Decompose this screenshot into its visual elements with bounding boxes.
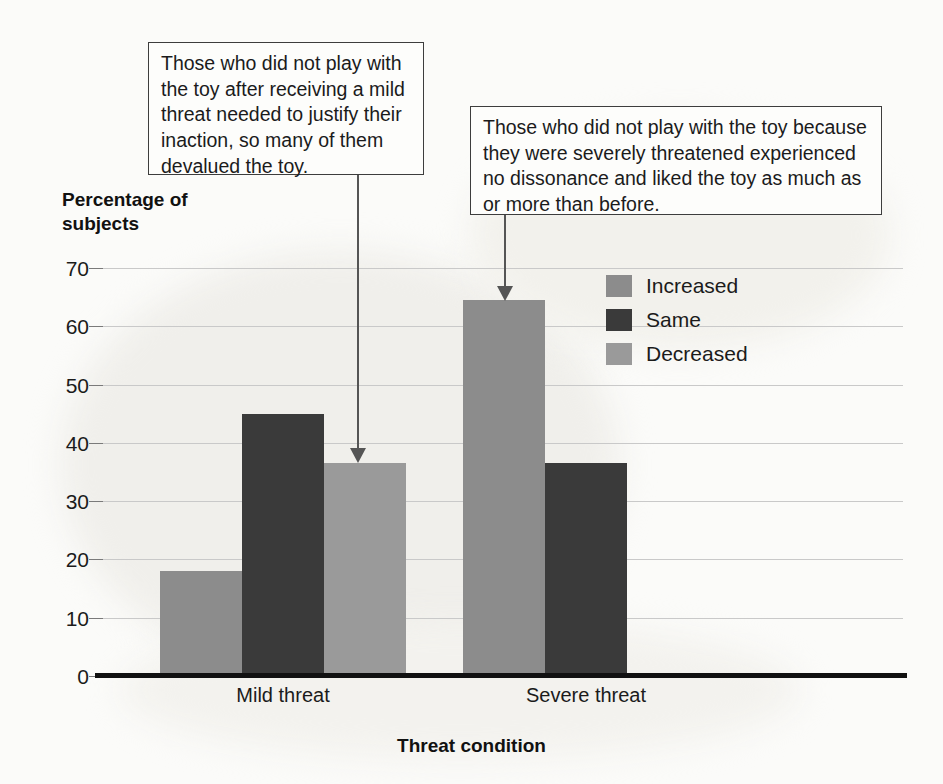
legend-item-same: Same (606, 303, 748, 337)
y-axis-tick-label: 60 (29, 316, 89, 337)
legend-item-decreased: Decreased (606, 337, 748, 371)
plot-area: 010203040506070 Mild threatSevere threat (103, 268, 903, 676)
bar-mild-threat-increased (160, 571, 242, 676)
x-axis-category-severe-threat: Severe threat (433, 684, 739, 707)
bar-severe-threat-same (545, 463, 627, 676)
y-axis-title-line2: subjects (62, 212, 252, 236)
callout-severe-threat: Those who did not play with the toy beca… (470, 106, 882, 215)
bar-mild-threat-decreased (324, 463, 406, 676)
legend-label: Increased (646, 274, 738, 298)
chart-figure: Percentage of subjects 010203040506070 M… (0, 0, 943, 784)
y-axis-tick-mark (89, 326, 103, 327)
legend-swatch-icon (606, 275, 632, 297)
y-axis-title-line1: Percentage of (62, 188, 252, 212)
y-axis-tick-label: 0 (29, 666, 89, 687)
y-axis-tick-label: 30 (29, 491, 89, 512)
y-axis-tick-mark (89, 618, 103, 619)
y-axis-tick-mark (89, 559, 103, 560)
y-axis-title: Percentage of subjects (62, 188, 252, 236)
y-axis-tick-mark (89, 385, 103, 386)
legend-swatch-icon (606, 309, 632, 331)
callout-mild-threat: Those who did not play with the toy afte… (148, 42, 424, 175)
callout-severe-pointer-line (504, 215, 506, 288)
legend-label: Decreased (646, 342, 748, 366)
callout-mild-pointer-line (357, 175, 359, 450)
x-axis-line (95, 673, 907, 678)
callout-mild-arrow-icon (350, 448, 366, 463)
x-axis-title: Threat condition (0, 735, 943, 757)
y-axis-tick-mark (89, 501, 103, 502)
y-axis-tick-label: 40 (29, 432, 89, 453)
gridline (103, 268, 903, 269)
y-axis-tick-label: 50 (29, 374, 89, 395)
y-axis-tick-mark (89, 443, 103, 444)
y-axis-tick-mark (89, 268, 103, 269)
y-axis-tick-label: 20 (29, 549, 89, 570)
callout-severe-arrow-icon (497, 286, 513, 301)
y-axis-tick-label: 10 (29, 607, 89, 628)
legend-swatch-icon (606, 343, 632, 365)
bar-severe-threat-increased (463, 300, 545, 676)
x-axis-category-mild-threat: Mild threat (130, 684, 436, 707)
bar-mild-threat-same (242, 414, 324, 676)
legend-label: Same (646, 308, 701, 332)
legend-item-increased: Increased (606, 269, 748, 303)
y-axis-tick-label: 70 (29, 258, 89, 279)
legend: IncreasedSameDecreased (606, 269, 748, 371)
